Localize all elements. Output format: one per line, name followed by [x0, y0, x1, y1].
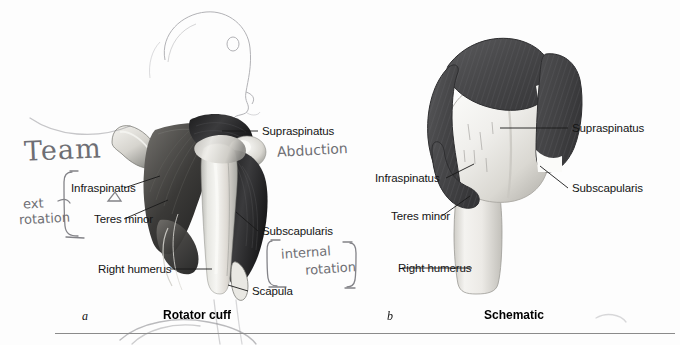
- caption-letter-a: a: [82, 309, 88, 324]
- label-a-teres-minor: Teres minor: [94, 213, 153, 225]
- figure-page: Supraspinatus Infraspinatus Teres minor …: [0, 0, 680, 345]
- panel-b-illustration: [340, 0, 680, 320]
- label-a-infraspinatus: Infraspinatus: [71, 182, 136, 194]
- caption-letter-b: b: [387, 309, 393, 324]
- label-b-supraspinatus: Supraspinatus: [572, 122, 644, 134]
- label-a-scapula: Scapula: [252, 285, 293, 297]
- label-a-right-humerus: Right humerus: [98, 263, 171, 275]
- label-b-infraspinatus: Infraspinatus: [375, 172, 440, 184]
- caption-title-b: Schematic: [484, 308, 544, 322]
- label-b-teres-minor: Teres minor: [391, 210, 450, 222]
- subscapularis-muscle-b: [536, 54, 582, 172]
- label-a-subscapularis: Subscapularis: [262, 225, 333, 237]
- handwritten-ext-rotation-line1: ext: [23, 195, 44, 211]
- handwritten-ext-rotation-line2: rotation: [19, 210, 71, 228]
- label-a-supraspinatus: Supraspinatus: [262, 125, 334, 137]
- label-b-subscapularis: Subscapularis: [572, 182, 643, 194]
- handwritten-team: Team: [23, 132, 102, 166]
- caption-title-a: Rotator cuff: [163, 308, 231, 322]
- bottom-divider-rule: [55, 333, 675, 334]
- label-b-right-humerus: Right humerus: [398, 262, 471, 274]
